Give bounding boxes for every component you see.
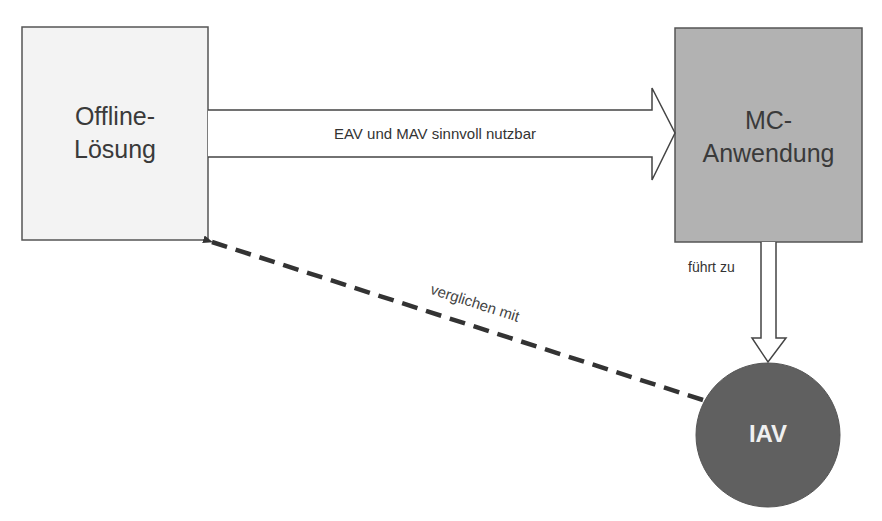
mc-label-line1: MC- (675, 104, 862, 137)
mc-label-line2: Anwendung (675, 137, 862, 170)
offline-label-line1: Offline- (22, 100, 208, 133)
offline-solution-label: Offline- Lösung (22, 100, 208, 166)
iav-to-offline-dashed-arrow (212, 242, 703, 400)
mc-application-label: MC- Anwendung (675, 104, 862, 170)
offline-label-line2: Lösung (22, 133, 208, 166)
offline-to-mc-label: EAV und MAV sinnvoll nutzbar (250, 125, 620, 143)
iav-label: IAV (718, 420, 818, 448)
mc-to-iav-label: führt zu (688, 259, 758, 276)
